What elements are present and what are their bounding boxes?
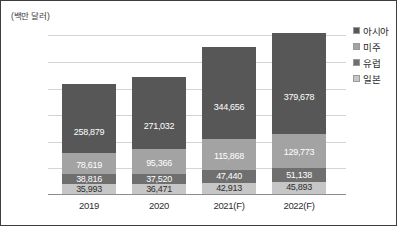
bar-segment[interactable]: 42,913 xyxy=(202,183,256,194)
bar-segment[interactable]: 379,678 xyxy=(272,33,326,134)
legend-label: 일본 xyxy=(363,72,380,86)
bar-value-label: 344,656 xyxy=(214,103,244,112)
bar-segment[interactable]: 115,868 xyxy=(202,139,256,170)
bar-value-label: 45,893 xyxy=(286,183,312,192)
bar-segment[interactable]: 45,893 xyxy=(272,182,326,194)
legend-label: 유럽 xyxy=(363,56,380,70)
bar-value-label: 115,868 xyxy=(214,152,244,161)
y-axis-unit-label: (백만 달러) xyxy=(11,9,50,21)
bar-value-label: 42,913 xyxy=(216,184,242,193)
chart-legend: 아시아미주유럽일본 xyxy=(353,25,389,84)
legend-swatch-icon xyxy=(353,59,360,66)
bar-value-label: 36,471 xyxy=(146,185,172,194)
bar-group[interactable]: 36,47137,52095,366271,032 xyxy=(132,77,186,194)
x-axis-tick-label: 2019 xyxy=(54,200,124,211)
x-axis-tick-label: 2021(F) xyxy=(194,200,264,211)
x-axis-tick-label: 2022(F) xyxy=(264,200,334,211)
legend-swatch-icon xyxy=(353,43,360,50)
x-axis-baseline xyxy=(48,194,346,195)
bar-segment[interactable]: 344,656 xyxy=(202,47,256,139)
bar-value-label: 51,138 xyxy=(286,171,312,180)
bar-value-label: 379,678 xyxy=(284,93,314,102)
bar-segment[interactable]: 37,520 xyxy=(132,174,186,184)
bar-segment[interactable]: 35,993 xyxy=(62,184,116,194)
bar-value-label: 47,440 xyxy=(216,172,242,181)
legend-label: 미주 xyxy=(363,40,380,54)
bar-value-label: 37,520 xyxy=(146,175,172,184)
bar-segment[interactable]: 51,138 xyxy=(272,168,326,182)
bar-segment[interactable]: 95,366 xyxy=(132,149,186,174)
legend-item[interactable]: 미주 xyxy=(353,41,389,52)
bar-segment[interactable]: 38,816 xyxy=(62,174,116,184)
bar-value-label: 78,619 xyxy=(76,161,102,170)
legend-item[interactable]: 유럽 xyxy=(353,57,389,68)
legend-item[interactable]: 일본 xyxy=(353,73,389,84)
plot-area: 100,000200,000300,000400,000500,000600,0… xyxy=(48,30,346,195)
bar-value-label: 258,879 xyxy=(74,128,104,137)
bar-segment[interactable]: 258,879 xyxy=(62,84,116,153)
bar-group[interactable]: 35,99338,81678,619258,879 xyxy=(62,84,116,194)
bar-segment[interactable]: 78,619 xyxy=(62,153,116,174)
legend-swatch-icon xyxy=(353,27,360,34)
bar-group[interactable]: 42,91347,440115,868344,656 xyxy=(202,47,256,194)
bar-value-label: 35,993 xyxy=(76,185,102,194)
legend-item[interactable]: 아시아 xyxy=(353,25,389,36)
legend-swatch-icon xyxy=(353,75,360,82)
bar-segment[interactable]: 36,471 xyxy=(132,184,186,194)
bar-group[interactable]: 45,89351,138129,773379,678 xyxy=(272,33,326,194)
bar-value-label: 38,816 xyxy=(76,175,102,184)
legend-label: 아시아 xyxy=(363,24,389,38)
bar-value-label: 129,773 xyxy=(284,148,314,157)
bar-segment[interactable]: 271,032 xyxy=(132,77,186,149)
bar-value-label: 271,032 xyxy=(144,122,174,131)
x-axis-tick-label: 2020 xyxy=(124,200,194,211)
bar-segment[interactable]: 129,773 xyxy=(272,134,326,169)
stacked-bar-chart: (백만 달러) 100,000200,000300,000400,000500,… xyxy=(0,0,397,226)
bar-value-label: 95,366 xyxy=(146,159,172,168)
bar-segment[interactable]: 47,440 xyxy=(202,170,256,183)
